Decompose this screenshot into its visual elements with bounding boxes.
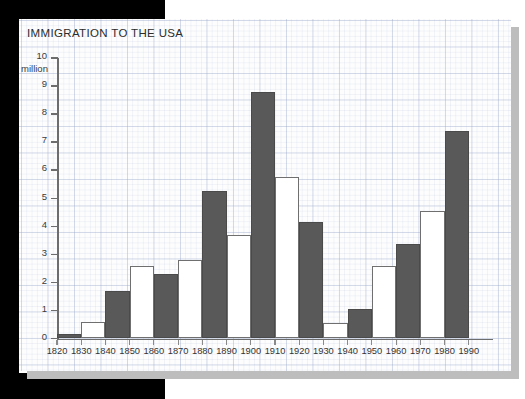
x-axis-tick-1850 <box>129 340 130 345</box>
x-axis-tick-1910 <box>274 340 275 345</box>
x-axis-tick-1950 <box>371 340 372 345</box>
bar-1860-1870 <box>154 274 178 338</box>
x-axis-tick-1870 <box>178 340 179 345</box>
x-axis-label-1820: 1820 <box>47 346 68 356</box>
x-axis-label-1940: 1940 <box>337 346 358 356</box>
y-axis-tick-label: 7 <box>42 134 47 145</box>
y-axis-tick-label: 4 <box>42 219 47 230</box>
x-axis-label-1830: 1830 <box>71 346 92 356</box>
y-axis-tick-2: 2 <box>51 282 58 283</box>
y-axis-tick-label: 9 <box>42 78 47 89</box>
bar-1910-1920 <box>275 177 299 338</box>
y-axis-tick-8: 8 <box>51 113 58 114</box>
y-axis-tick-10: 10 <box>51 57 58 58</box>
x-axis-tick-1920 <box>299 340 300 345</box>
bar-1940-1950 <box>348 309 372 338</box>
x-axis-label-1970: 1970 <box>410 346 431 356</box>
bar-1970-1980 <box>420 211 444 339</box>
y-axis-tick-label: 8 <box>42 106 47 117</box>
bar-1900-1910 <box>251 92 275 339</box>
x-axis-tick-1930 <box>323 340 324 345</box>
x-axis-tick-1900 <box>250 340 251 345</box>
y-axis-tick-label: 5 <box>42 191 47 202</box>
bar-chart-plot-area: million 01234567891018201830184018501860… <box>57 58 493 340</box>
x-axis-label-1960: 1960 <box>386 346 407 356</box>
bar-1820-1830 <box>57 334 81 338</box>
y-axis-tick-label: 10 <box>36 50 47 61</box>
y-axis-tick-label: 3 <box>42 247 47 258</box>
y-axis-tick-9: 9 <box>51 85 58 86</box>
x-axis-label-1870: 1870 <box>168 346 189 356</box>
bar-1870-1880 <box>178 260 202 339</box>
graph-paper-sheet: IMMIGRATION TO THE USA million 012345678… <box>19 19 511 371</box>
y-axis-tick-5: 5 <box>51 198 58 199</box>
x-axis-tick-1840 <box>105 340 106 345</box>
x-axis-tick-1980 <box>444 340 445 345</box>
y-axis-tick-label: 2 <box>42 275 47 286</box>
x-axis-label-1930: 1930 <box>313 346 334 356</box>
x-axis-tick-1960 <box>396 340 397 345</box>
x-axis-tick-1990 <box>468 340 469 345</box>
x-axis-label-1890: 1890 <box>216 346 237 356</box>
x-axis-label-1950: 1950 <box>362 346 383 356</box>
bar-1950-1960 <box>372 266 396 339</box>
y-axis-tick-label: 6 <box>42 162 47 173</box>
x-axis-label-1980: 1980 <box>434 346 455 356</box>
x-axis-tick-1830 <box>81 340 82 345</box>
x-axis-label-1990: 1990 <box>458 346 479 356</box>
x-axis-tick-1880 <box>202 340 203 345</box>
x-axis-tick-1940 <box>347 340 348 345</box>
bar-1960-1970 <box>396 244 420 338</box>
y-axis-tick-label: 1 <box>42 303 47 314</box>
y-axis-line <box>57 58 59 340</box>
y-axis-tick-3: 3 <box>51 254 58 255</box>
x-axis-label-1900: 1900 <box>240 346 261 356</box>
x-axis-label-1910: 1910 <box>265 346 286 356</box>
x-axis-label-1880: 1880 <box>192 346 213 356</box>
bar-1880-1890 <box>202 191 226 338</box>
x-axis-label-1920: 1920 <box>289 346 310 356</box>
x-axis-tick-1970 <box>420 340 421 345</box>
y-axis-tick-7: 7 <box>51 141 58 142</box>
y-axis-tick-label: 0 <box>42 331 47 342</box>
y-axis-tick-4: 4 <box>51 226 58 227</box>
bar-1930-1940 <box>323 323 347 338</box>
y-axis-tick-1: 1 <box>51 310 58 311</box>
x-axis-label-1840: 1840 <box>95 346 116 356</box>
x-axis-label-1850: 1850 <box>119 346 140 356</box>
bar-1890-1900 <box>227 235 251 339</box>
x-axis-tick-1890 <box>226 340 227 345</box>
y-axis-tick-6: 6 <box>51 169 58 170</box>
x-axis-tick-1820 <box>56 340 57 345</box>
bar-1980-1990 <box>445 131 469 338</box>
x-axis-tick-1860 <box>153 340 154 345</box>
bar-1920-1930 <box>299 222 323 338</box>
x-axis-label-1860: 1860 <box>144 346 165 356</box>
bar-1830-1840 <box>81 322 105 339</box>
y-axis-unit-label: million <box>21 63 48 74</box>
chart-title: IMMIGRATION TO THE USA <box>27 27 183 39</box>
screenshot-scene: IMMIGRATION TO THE USA million 012345678… <box>0 0 525 399</box>
bar-1840-1850 <box>105 291 129 339</box>
photo-frame-left <box>0 0 19 373</box>
bar-1850-1860 <box>130 266 154 339</box>
